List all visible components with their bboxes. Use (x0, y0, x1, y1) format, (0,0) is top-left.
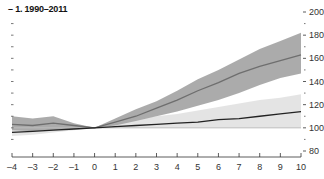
x-tick-label: 3 (154, 162, 159, 172)
x-tick-label: 2 (133, 162, 138, 172)
x-tick-label: –4 (7, 162, 17, 172)
x-tick-label: 6 (216, 162, 221, 172)
x-tick-label: –2 (48, 162, 58, 172)
y-tick-label: 180 (309, 30, 324, 40)
x-tick-label: –3 (28, 162, 38, 172)
x-tick-label: 8 (257, 162, 262, 172)
y-tick-label: 80 (309, 146, 319, 156)
confidence-bands (12, 33, 301, 136)
x-tick-label: 0 (92, 162, 97, 172)
y-tick-label: 200 (309, 7, 324, 17)
x-tick-label: 7 (237, 162, 242, 172)
x-tick-label: 10 (296, 162, 306, 172)
y-tick-label: 120 (309, 100, 324, 110)
y-axis: 80100120140160180200 (11, 7, 324, 156)
x-tick-label: –1 (69, 162, 79, 172)
y-tick-label: 140 (309, 77, 324, 87)
x-tick-label: 9 (278, 162, 283, 172)
line-chart: –4–3–2–1012345678910 8010012014016018020… (0, 0, 324, 179)
x-axis: –4–3–2–1012345678910 (7, 153, 306, 172)
x-tick-label: 5 (195, 162, 200, 172)
x-tick-label: 1 (113, 162, 118, 172)
x-tick-label: 4 (175, 162, 180, 172)
y-tick-label: 100 (309, 123, 324, 133)
y-tick-label: 160 (309, 53, 324, 63)
